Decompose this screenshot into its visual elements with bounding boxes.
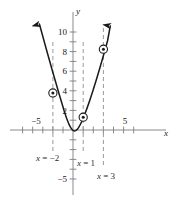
point-marker [49,89,57,97]
marked-points [49,45,108,121]
y-tick-label-6: 6 [63,66,68,76]
vline-label-x-1: x = 1 [76,158,95,168]
y-axis-label: y [75,6,80,16]
y-tick-label-2: 2 [63,106,68,116]
svg-text:x = −2: x = −2 [35,153,59,163]
vline-label-eq: = [40,153,50,163]
y-tick-label-4: 4 [63,86,68,96]
x-axis-label: x [163,128,168,138]
vline-label-val: 1 [91,158,96,168]
vline-label-val: −2 [50,153,60,163]
vline-label-eq: = [81,158,91,168]
x-tick-label-5: 5 [123,116,128,126]
y-tick-label-8: 8 [63,47,68,57]
vline-label-x-3: x = 3 [96,171,116,181]
vline-label-val: 3 [111,171,116,181]
svg-text:x = 3: x = 3 [96,171,116,181]
y-tick-label-10: 10 [58,27,68,37]
y-tick-label-neg5: −5 [57,174,67,184]
plot-canvas: x y −5 5 10 8 6 4 2 −5 x = −2 x = 1 x = … [0,0,176,203]
point-marker [79,113,87,121]
vline-label-x-neg2: x = −2 [35,153,59,163]
parabola-graph-figure: x y −5 5 10 8 6 4 2 −5 x = −2 x = 1 x = … [0,0,176,203]
parabola-path [39,24,110,131]
point-marker [99,45,107,53]
x-tick-label-neg5: −5 [31,116,41,126]
vline-label-eq: = [101,171,111,181]
parabola-curve-group [39,24,110,131]
svg-text:x = 1: x = 1 [76,158,95,168]
